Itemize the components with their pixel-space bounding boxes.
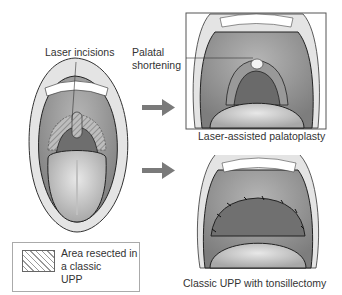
- arrow-to-lap: [142, 99, 175, 116]
- label-palatal-shortening-1: Palatal: [132, 46, 164, 58]
- upp-illustration: [197, 155, 318, 268]
- arrow-to-upp: [142, 162, 175, 179]
- lap-illustration: [186, 13, 326, 129]
- label-palatal-shortening-2: shortening: [132, 59, 181, 71]
- hatch-swatch-icon: [22, 250, 55, 272]
- caption-lap: Laser-assisted palatoplasty: [198, 130, 325, 142]
- left-mouth-illustration: [29, 58, 128, 232]
- label-laser-incisions: Laser incisions: [45, 46, 114, 58]
- caption-upp: Classic UPP with tonsillectomy: [183, 277, 326, 289]
- legend-text: Area resected in a classic UPP: [61, 247, 137, 286]
- legend-box: Area resected in a classic UPP: [12, 242, 140, 292]
